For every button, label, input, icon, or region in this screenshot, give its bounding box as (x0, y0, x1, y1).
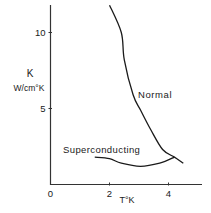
y-axis-label-symbol: K (27, 68, 34, 79)
normal-curve (110, 5, 184, 163)
normal-label: Normal (138, 89, 172, 100)
x-tick-label: 0 (48, 188, 53, 199)
superconducting-label: Superconducting (63, 144, 140, 155)
y-tick-label: 10 (35, 27, 46, 38)
superconducting-curve (95, 157, 175, 166)
x-tick-label: 4 (166, 188, 171, 199)
x-tick-label: 2 (107, 188, 112, 199)
x-axis-label: T°K (119, 195, 134, 205)
y-tick-label: 5 (40, 103, 45, 114)
y-ticks: 510 (35, 27, 52, 114)
y-axis-label-units: W/cm°K (14, 83, 45, 93)
chart: 510 024 K W/cm°K T°K Normal Superconduct… (0, 0, 211, 213)
